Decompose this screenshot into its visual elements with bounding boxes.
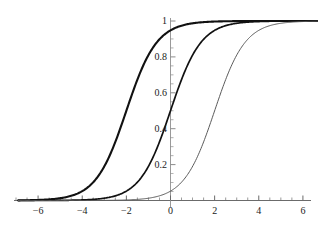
series-curve-left (18, 21, 318, 200)
series-curve-right (18, 21, 318, 200)
data-series-group (18, 21, 318, 201)
x-tick-label: 6 (300, 206, 305, 216)
y-axis-major-ticks (171, 21, 176, 165)
x-tick-label: −4 (77, 206, 88, 216)
series-curve-center (18, 21, 318, 200)
axes-group (14, 18, 311, 207)
y-tick-label: 0.2 (155, 160, 168, 170)
y-tick-label: 1 (162, 16, 167, 26)
plot-area (0, 0, 318, 235)
x-tick-label: 4 (256, 206, 261, 216)
x-tick-label: −2 (121, 206, 132, 216)
x-tick-label: 0 (168, 206, 173, 216)
y-tick-label: 0.6 (155, 88, 168, 98)
y-tick-label: 0.4 (155, 124, 168, 134)
y-tick-label: 0.8 (155, 52, 168, 62)
x-tick-label: −6 (33, 206, 44, 216)
x-tick-label: 2 (212, 206, 217, 216)
sigmoid-chart: −6−4−20246 0.20.40.60.81 (0, 0, 318, 235)
